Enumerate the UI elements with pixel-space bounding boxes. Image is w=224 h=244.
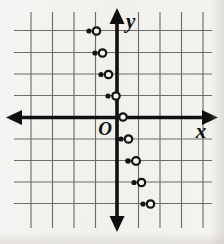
data-point-dot [131,180,136,185]
origin-label: O [98,118,112,139]
scatter-plot-svg: y x O [0,0,224,244]
x-axis [6,110,218,125]
data-point-dot [118,136,123,141]
data-point-dot [92,50,97,55]
data-point-ring [99,49,106,56]
data-point-ring [119,113,126,120]
data-point [92,49,106,56]
data-point-ring [138,179,145,186]
data-point [118,135,132,142]
data-point-dot [140,201,145,206]
data-point-ring [132,157,140,165]
data-point [125,157,140,165]
data-point-ring [147,200,154,207]
y-axis-label: y [123,9,136,33]
data-point [119,113,126,120]
data-point-dot [125,158,131,164]
data-point-ring [112,92,119,99]
data-point [98,71,112,78]
y-axis-arrow-down [110,216,125,232]
data-point-ring [93,27,100,34]
data-point-dot [98,72,103,77]
data-point [86,27,100,34]
data-point [140,200,154,207]
data-point [131,179,145,186]
data-point-dot [105,93,110,98]
data-point-ring [105,71,112,78]
y-axis-arrow-up [110,8,125,24]
x-axis-arrow-left [6,110,22,125]
data-point [105,92,119,99]
data-point-ring [125,135,132,142]
x-axis-label: x [195,119,207,143]
coordinate-plane-figure: y x O [0,0,224,244]
data-point-dot [86,28,91,33]
